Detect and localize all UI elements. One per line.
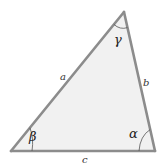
angle-beta-label: β bbox=[28, 129, 37, 144]
triangle-diagram: γ β α a b c bbox=[0, 0, 165, 166]
side-a-label: a bbox=[60, 71, 66, 82]
angle-alpha-label: α bbox=[129, 126, 138, 141]
angle-gamma-label: γ bbox=[114, 32, 122, 47]
side-c-label: c bbox=[82, 154, 88, 165]
side-b-label: b bbox=[143, 77, 149, 88]
